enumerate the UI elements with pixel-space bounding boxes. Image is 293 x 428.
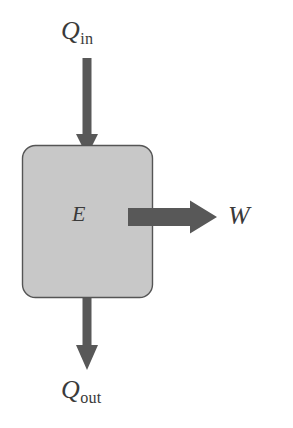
energy-balance-diagram: Qin E W Qout	[0, 0, 293, 428]
heat-out-subscript: out	[80, 389, 101, 406]
heat-in-symbol: Q	[61, 16, 80, 45]
system-label: E	[72, 203, 85, 225]
heat-out-symbol: Q	[61, 375, 80, 404]
heat-in-arrow	[76, 58, 98, 156]
heat-in-subscript: in	[80, 30, 93, 47]
heat-out-label: Qout	[61, 377, 101, 406]
heat-out-arrow	[76, 290, 98, 370]
heat-in-arrow-shape	[76, 58, 98, 156]
heat-out-arrow-shape	[76, 290, 98, 370]
work-out-label: W	[228, 203, 250, 229]
heat-in-label: Qin	[61, 18, 93, 47]
